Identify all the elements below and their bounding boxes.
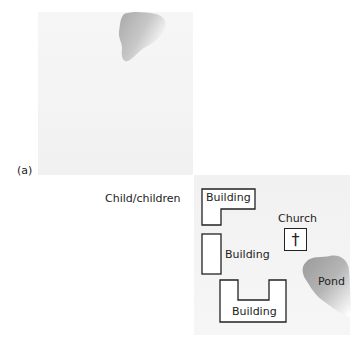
cross-icon: † xyxy=(285,229,306,250)
building-rect-shape xyxy=(202,234,221,274)
building-label-top: Building xyxy=(206,191,251,204)
church-marker: † xyxy=(284,228,307,251)
buildings-layer xyxy=(0,0,363,348)
building-label-middle: Building xyxy=(225,248,270,261)
church-label: Church xyxy=(278,212,317,225)
building-label-bottom: Building xyxy=(232,305,277,318)
pond-label: Pond xyxy=(318,275,345,288)
